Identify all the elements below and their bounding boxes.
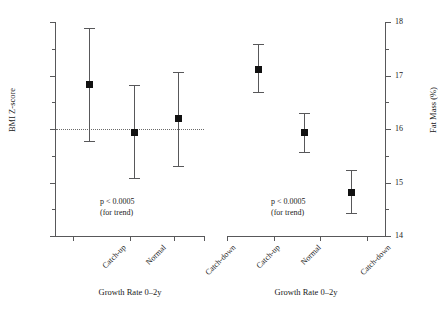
error-bar-cap-upper [173,72,184,73]
error-bar-cap-upper [346,170,357,171]
right-y-ticklabel-4: 14 [395,232,403,240]
pvalue-line-1: p < 0.0005 [271,196,306,207]
error-bar-cap-lower [346,213,357,214]
data-marker [348,189,355,196]
right-panel-y-axis-title: Fat Mass (%) [428,65,438,155]
left-x-category-0: Catch-up [101,243,128,270]
error-bar-cap-lower [129,178,140,179]
right-x-tick-2 [320,236,321,241]
right-y-ticklabel-2: 16 [395,125,403,133]
right-x-category-1: Normal [299,243,323,267]
left-x-tick-2 [174,236,175,241]
error-bar-cap-upper [84,28,95,29]
left-panel-y-axis-title: BMI Z-score [7,65,17,155]
data-marker [175,115,182,122]
right-y-ticklabel-1: 17 [395,72,403,80]
right-panel-pvalue-annotation: p < 0.0005 (for trend) [271,196,306,218]
left-panel-pvalue-annotation: p < 0.0005 (for trend) [100,196,135,218]
right-y-ticklabel-0: 18 [395,18,403,26]
error-bar-cap-upper [299,113,310,114]
left-x-tick-0 [73,236,74,241]
left-x-tick-3 [204,236,205,241]
left-x-tick-1 [130,236,131,241]
error-bar-cap-upper [129,85,140,86]
data-marker [86,81,93,88]
data-marker [255,66,262,73]
error-bar-cap-upper [253,44,264,45]
error-bar-cap-lower [84,141,95,142]
right-x-tick-3 [367,236,368,241]
left-x-category-1: Normal [144,243,168,267]
error-bar-cap-lower [299,152,310,153]
pvalue-line-2: (for trend) [100,207,135,218]
right-x-category-0: Catch-up [255,243,282,270]
right-x-category-2: Catch-down [358,243,392,277]
error-bar-cap-lower [173,166,184,167]
right-panel-x-axis-line [227,236,386,237]
data-marker [131,129,138,136]
pvalue-line-2: (for trend) [271,207,306,218]
left-panel-x-axis-title: Growth Rate 0–2y [40,287,220,297]
chart-panel-right: 18 17 16 15 14 Fat Mass (%) [216,0,432,309]
right-panel-x-axis-title: Growth Rate 0–2y [216,287,396,297]
error-bar-cap-lower [253,92,264,93]
pvalue-line-1: p < 0.0005 [100,196,135,207]
data-marker [301,129,308,136]
right-y-ticklabel-3: 15 [395,179,403,187]
right-x-tick-0 [227,236,228,241]
chart-panel-left: 2 1 0 -1 -2 BMI Z-score [0,0,216,309]
right-x-tick-1 [274,236,275,241]
